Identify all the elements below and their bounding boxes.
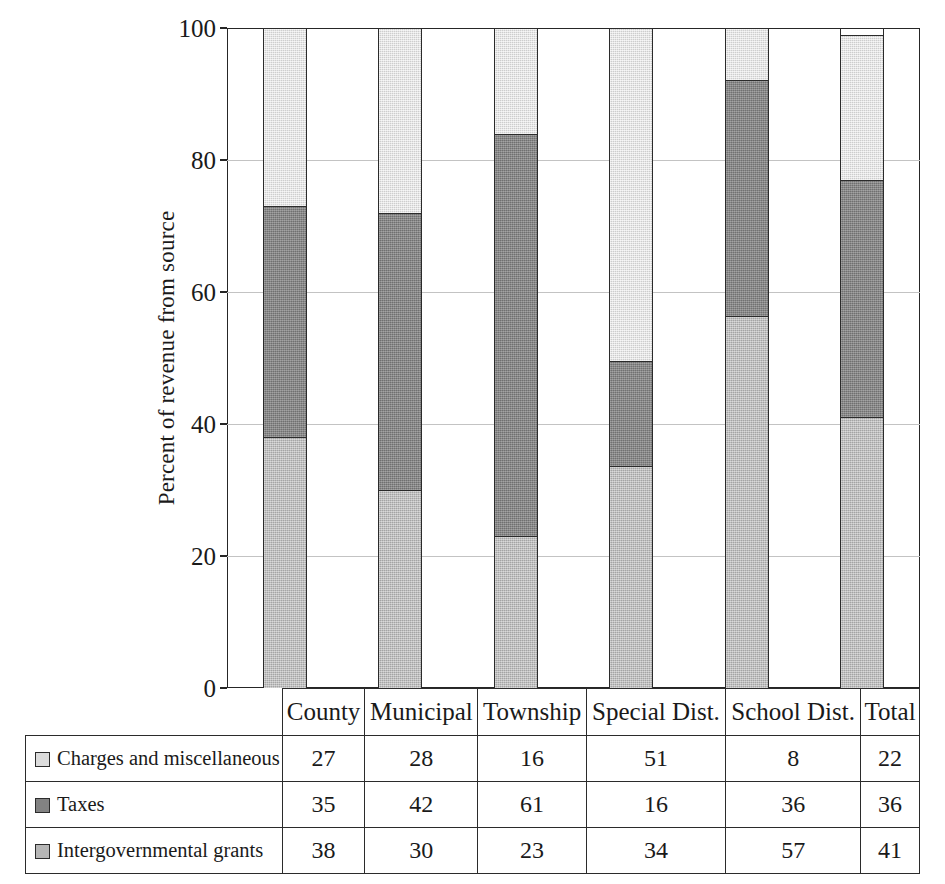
legend-row-label: Charges and miscellaneous — [26, 736, 283, 782]
bar-segment-charges — [495, 28, 537, 134]
bar-segment-grants — [264, 437, 306, 688]
bar-segment-charges — [610, 28, 652, 361]
y-tick-mark-100 — [220, 27, 227, 29]
bar-slot-township — [458, 28, 574, 688]
bar-slot-county — [227, 28, 343, 688]
bar-segment-charges — [726, 28, 768, 80]
bar-segment-grants — [841, 417, 883, 688]
table-corner-blank — [26, 689, 283, 736]
column-header-municipal: Municipal — [365, 689, 478, 736]
bar-slot-school-dist — [689, 28, 805, 688]
y-tick-label-100: 100 — [179, 16, 217, 41]
table-cell: 16 — [478, 736, 586, 782]
bar-slot-special-dist — [574, 28, 690, 688]
bar-segment-taxes — [264, 206, 306, 437]
legend-label-text: Taxes — [57, 793, 105, 815]
table-cell: 42 — [365, 782, 478, 828]
stacked-bar — [494, 28, 538, 688]
bar-segment-charges — [264, 28, 306, 206]
table-header-row: CountyMunicipalTownshipSpecial Dist.Scho… — [26, 689, 920, 736]
bar-segment-taxes — [726, 80, 768, 315]
table-cell: 36 — [726, 782, 861, 828]
table-row: Charges and miscellaneous27281651822 — [26, 736, 920, 782]
y-tick-mark-80 — [220, 159, 227, 161]
table-cell: 16 — [586, 782, 725, 828]
bar-segment-grants — [610, 466, 652, 688]
bar-segment-taxes — [379, 213, 421, 490]
y-tick-label-20: 20 — [191, 544, 216, 569]
plot-area: 020406080100 — [227, 28, 920, 688]
bar-segment-taxes — [610, 361, 652, 466]
y-tick-mark-40 — [220, 423, 227, 425]
table-cell: 22 — [861, 736, 920, 782]
stacked-bar — [609, 28, 653, 688]
legend-swatch-icon — [35, 752, 50, 767]
table-cell: 61 — [478, 782, 586, 828]
y-tick-label-80: 80 — [191, 148, 216, 173]
stacked-bar — [263, 28, 307, 688]
bar-segment-taxes — [841, 180, 883, 418]
bar-segment-grants — [495, 536, 537, 688]
bar-slot-total — [805, 28, 921, 688]
legend-swatch-icon — [35, 844, 50, 859]
table-cell: 41 — [861, 828, 920, 874]
column-header-total: Total — [861, 689, 920, 736]
y-tick-mark-60 — [220, 291, 227, 293]
legend-row-label: Taxes — [26, 782, 283, 828]
column-header-special-dist: Special Dist. — [586, 689, 725, 736]
table-cell: 34 — [586, 828, 725, 874]
column-header-township: Township — [478, 689, 586, 736]
table-cell: 8 — [726, 736, 861, 782]
table-cell: 57 — [726, 828, 861, 874]
table-cell: 28 — [365, 736, 478, 782]
y-tick-label-40: 40 — [191, 412, 216, 437]
y-tick-label-60: 60 — [191, 280, 216, 305]
table-cell: 35 — [282, 782, 365, 828]
bar-segment-grants — [379, 490, 421, 688]
bar-segment-grants — [726, 316, 768, 688]
legend-label-text: Charges and miscellaneous — [57, 747, 280, 769]
table-cell: 51 — [586, 736, 725, 782]
bar-segment-charges — [841, 35, 883, 180]
table-row: Taxes354261163636 — [26, 782, 920, 828]
table-cell: 27 — [282, 736, 365, 782]
legend-swatch-icon — [35, 798, 50, 813]
y-axis-title: Percent of revenue from source — [150, 28, 184, 688]
stacked-bar — [378, 28, 422, 688]
bar-segment-charges — [379, 28, 421, 213]
bars-group — [227, 28, 920, 688]
table-cell: 36 — [861, 782, 920, 828]
legend-label-text: Intergovernmental grants — [57, 839, 263, 861]
y-tick-mark-20 — [220, 555, 227, 557]
stacked-bar-chart-figure: Percent of revenue from source 020406080… — [0, 0, 945, 884]
data-table: CountyMunicipalTownshipSpecial Dist.Scho… — [25, 688, 920, 874]
stacked-bar — [840, 28, 884, 688]
stacked-bar — [725, 28, 769, 688]
bar-segment-taxes — [495, 134, 537, 537]
bar-slot-municipal — [343, 28, 459, 688]
column-header-county: County — [282, 689, 365, 736]
column-header-school-dist: School Dist. — [726, 689, 861, 736]
page-footer-fragment — [25, 866, 525, 882]
